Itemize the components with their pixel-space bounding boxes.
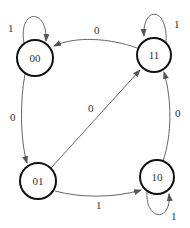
state-label-11: 11 xyxy=(149,49,160,61)
edge-label-00-self: 1 xyxy=(8,22,14,34)
edge-label-11-self: 1 xyxy=(174,18,180,30)
edge-00-01 xyxy=(21,74,27,163)
state-node-01: 01 xyxy=(20,163,56,199)
state-node-11: 11 xyxy=(137,38,171,72)
edge-11-00 xyxy=(54,39,137,48)
edge-01-11 xyxy=(51,70,140,168)
edge-label-01-11: 0 xyxy=(88,102,94,114)
edge-01-10 xyxy=(55,190,141,196)
state-node-10: 10 xyxy=(140,160,174,194)
state-label-10: 10 xyxy=(152,171,164,183)
state-label-00: 00 xyxy=(30,52,42,64)
edge-label-00-01: 0 xyxy=(10,111,16,123)
state-node-00: 00 xyxy=(17,40,53,76)
state-label-01: 01 xyxy=(33,175,44,187)
edge-label-11-00: 0 xyxy=(94,24,100,36)
state-diagram: 1 1 1 0 0 0 1 0 00 11 01 10 xyxy=(0,0,190,228)
edge-label-10-self: 1 xyxy=(171,210,177,222)
edge-label-01-10: 1 xyxy=(96,199,102,211)
edge-10-11 xyxy=(163,72,170,161)
edge-label-10-11: 0 xyxy=(175,107,181,119)
